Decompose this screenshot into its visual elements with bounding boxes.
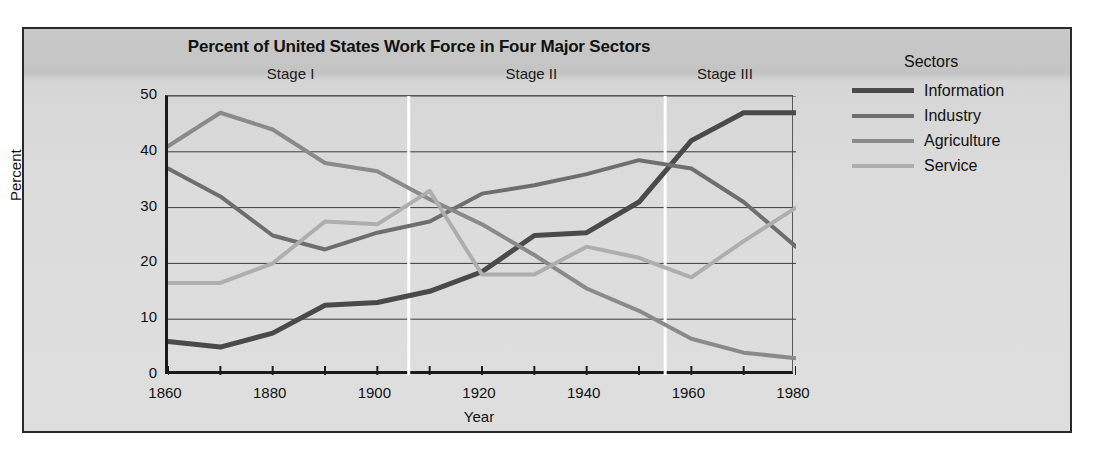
x-tick-label: 1980 <box>763 384 823 401</box>
legend-swatch-icon <box>852 164 914 168</box>
legend-label: Information <box>924 82 1004 100</box>
chart-legend: Sectors InformationIndustryAgricultureSe… <box>852 53 1062 178</box>
y-tick-label: 30 <box>117 197 157 214</box>
legend-swatch-icon <box>852 88 914 93</box>
x-tick-label: 1880 <box>240 384 300 401</box>
legend-swatch-icon <box>852 139 914 143</box>
legend-item-industry: Industry <box>852 103 1062 128</box>
x-axis-title: Year <box>165 408 793 425</box>
y-tick-label: 10 <box>117 308 157 325</box>
stage-label-1: Stage I <box>231 65 351 82</box>
legend-item-information: Information <box>852 78 1062 103</box>
stage-label-3: Stage III <box>665 65 785 82</box>
legend-title: Sectors <box>904 53 1062 71</box>
legend-label: Service <box>924 157 977 175</box>
x-tick-label: 1920 <box>449 384 509 401</box>
plot-svg <box>168 96 796 375</box>
series-line-industry <box>168 160 796 249</box>
y-tick-label: 40 <box>117 141 157 158</box>
y-tick-label: 0 <box>117 364 157 381</box>
legend-label: Industry <box>924 107 981 125</box>
legend-swatch-icon <box>852 114 914 118</box>
chart-figure: Percent of United States Work Force in F… <box>22 27 1072 433</box>
series-line-agriculture <box>168 113 796 359</box>
y-tick-label: 20 <box>117 252 157 269</box>
legend-item-service: Service <box>852 153 1062 178</box>
y-tick-label: 50 <box>117 85 157 102</box>
x-tick-label: 1940 <box>554 384 614 401</box>
y-axis-title: Percent <box>7 149 24 201</box>
x-tick-label: 1900 <box>344 384 404 401</box>
plot-area <box>165 95 793 374</box>
chart-title: Percent of United States Work Force in F… <box>24 37 814 57</box>
legend-label: Agriculture <box>924 132 1000 150</box>
x-tick-label: 1860 <box>135 384 195 401</box>
legend-item-agriculture: Agriculture <box>852 128 1062 153</box>
legend-items: InformationIndustryAgricultureService <box>852 78 1062 178</box>
x-tick-label: 1960 <box>658 384 718 401</box>
stage-label-2: Stage II <box>471 65 591 82</box>
